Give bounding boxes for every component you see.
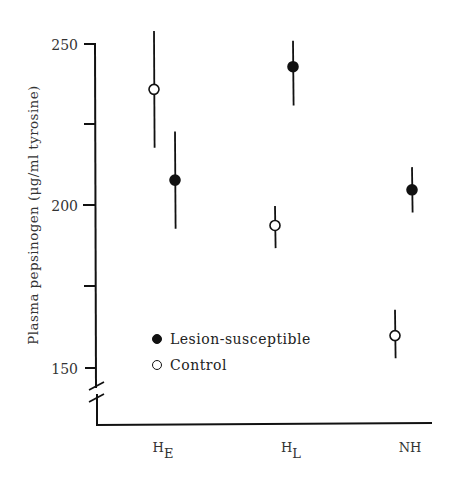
- chart-canvas: [0, 0, 453, 489]
- legend-label: Control: [170, 357, 227, 373]
- lesion-susceptible-point: [407, 185, 417, 195]
- x-label-he: HE: [153, 440, 174, 461]
- x-label-he-sub: E: [164, 446, 174, 461]
- legend-label: Lesion-susceptible: [170, 331, 311, 347]
- filled-circle-icon: [152, 334, 162, 344]
- y-tick-label-200: 200: [38, 198, 78, 214]
- x-label-he-base: H: [153, 440, 164, 455]
- open-circle-icon: [152, 360, 162, 370]
- control-point: [270, 220, 280, 230]
- control-point: [390, 331, 400, 341]
- lesion-susceptible-point: [170, 175, 180, 185]
- y-tick-label-250: 250: [38, 37, 78, 53]
- y-axis-label: Plasma pepsinogen (μg/ml tyrosine): [25, 85, 41, 345]
- x-axis-line: [96, 423, 432, 425]
- data-points: [149, 31, 417, 358]
- x-label-nh-base: NH: [399, 440, 422, 455]
- legend-item-lesion-susceptible: Lesion-susceptible: [152, 326, 311, 352]
- x-label-nh: NH: [399, 440, 422, 455]
- lesion-susceptible-point: [288, 62, 298, 72]
- x-label-hl-sub: L: [292, 446, 301, 461]
- y-axis-line: [95, 44, 96, 388]
- control-point: [149, 84, 159, 94]
- legend-item-control: Control: [152, 352, 311, 378]
- legend: Lesion-susceptible Control: [152, 326, 311, 378]
- y-tick-label-150: 150: [38, 361, 78, 377]
- x-label-hl: HL: [281, 440, 301, 461]
- x-label-hl-base: H: [281, 440, 292, 455]
- error-bar: [293, 41, 294, 106]
